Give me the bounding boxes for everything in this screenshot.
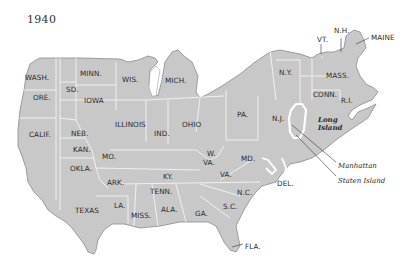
state-label-okla: OKLA. (70, 165, 92, 172)
state-label-mo: MO. (102, 153, 116, 160)
state-label-maine: MAINE (371, 34, 395, 41)
state-label-iowa: IOWA (84, 97, 104, 104)
state-label-nh: N.H. (334, 27, 350, 34)
state-label-calif: CALIF. (29, 131, 51, 138)
state-label-sd: SD. (66, 86, 79, 93)
state-label-texas: TEXAS (75, 207, 99, 214)
state-label-ohio: OHIO (182, 121, 201, 128)
state-label-wash: WASH. (25, 74, 49, 81)
state-label-del: DEL. (277, 180, 294, 187)
state-label-ala: ALA. (161, 206, 178, 213)
feature-label-manhattan: Manhattan (338, 162, 377, 170)
state-label-fla: FLA. (245, 243, 261, 250)
state-label-ore: ORE. (33, 94, 51, 101)
feature-label-staten-island: Staten Island (338, 177, 385, 185)
state-label-miss: MISS. (131, 212, 151, 219)
state-label-la: LA. (114, 202, 126, 209)
state-label-ky: KY. (163, 173, 173, 180)
us-map-cartogram (0, 0, 420, 280)
long-island-line2: Island (318, 124, 342, 132)
state-label-kan: KAN. (73, 146, 91, 153)
state-label-ark: ARK. (107, 179, 124, 186)
state-label-mich: MICH. (165, 77, 186, 84)
state-label-wis: WIS. (122, 76, 138, 83)
state-label-sc: S.C. (223, 203, 238, 210)
state-label-tenn: TENN. (150, 188, 172, 195)
state-label-ga: GA. (195, 210, 208, 217)
state-label-conn: CONN. (313, 91, 337, 98)
state-label-va: VA. (220, 171, 232, 178)
state-label-illinois: ILLINOIS (115, 121, 146, 128)
state-label-nc: N.C. (237, 189, 252, 196)
state-label-ny: N.Y. (279, 69, 292, 76)
feature-label-long-island: Long Island (318, 116, 342, 132)
us-landmass (18, 30, 378, 254)
state-label-ind: IND. (154, 130, 170, 137)
state-label-ri: R.I. (341, 97, 353, 104)
state-label-pa: PA. (237, 111, 248, 118)
lake-michigan (149, 66, 160, 96)
state-label-md: MD. (241, 155, 255, 162)
state-label-neb: NEB. (71, 130, 89, 137)
state-label-nj: N.J. (272, 115, 284, 122)
state-label-wva-2: VA. (203, 159, 215, 166)
state-label-mass: MASS. (326, 72, 349, 79)
state-label-vt: VT. (317, 36, 328, 43)
state-label-minn: MINN. (80, 70, 102, 77)
state-label-wva-1: W. (207, 150, 216, 157)
